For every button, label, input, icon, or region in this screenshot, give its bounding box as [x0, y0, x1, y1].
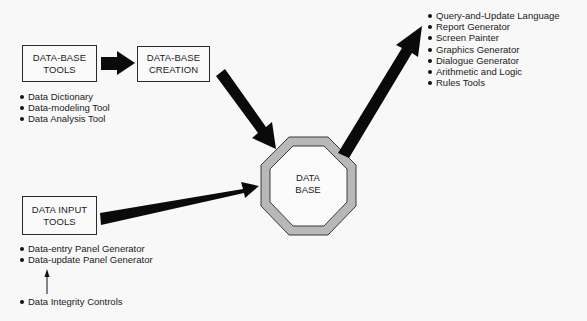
- list-item: Graphics Generator: [428, 44, 560, 55]
- list-item: Dialogue Generator: [428, 55, 560, 66]
- database-tools-list: Data Dictionary Data-modeling Tool Data …: [20, 91, 110, 125]
- list-item: Data-modeling Tool: [20, 102, 110, 113]
- node-data-input-tools: DATA INPUT TOOLS: [22, 196, 97, 235]
- integrity-list: Data Integrity Controls: [20, 296, 123, 307]
- list-item: Data-update Panel Generator: [20, 254, 153, 265]
- arrow-tools-to-creation: [101, 51, 135, 75]
- node-database-label: DATA BASE: [268, 172, 348, 196]
- list-item: Arithmetic and Logic: [428, 66, 560, 77]
- arrow-integrity-head: [45, 269, 50, 277]
- list-item: Screen Painter: [428, 32, 560, 43]
- node-database-tools: DATA-BASE TOOLS: [22, 45, 97, 82]
- arrow-database-to-outputs: [338, 26, 422, 158]
- data-input-list: Data-entry Panel Generator Data-update P…: [20, 243, 153, 265]
- list-item: Query-and-Update Language: [428, 10, 560, 21]
- node-database-creation: DATA-BASE CREATION: [137, 46, 210, 82]
- arrow-creation-to-database: [216, 69, 276, 149]
- node-label-line1: DATA-BASE: [33, 52, 86, 64]
- output-tools-list: Query-and-Update Language Report Generat…: [428, 10, 560, 88]
- node-label-line2: TOOLS: [32, 216, 88, 228]
- node-label-line1: DATA-BASE: [147, 52, 200, 64]
- node-label-line1: DATA INPUT: [32, 204, 88, 216]
- node-label-line2: TOOLS: [33, 64, 86, 76]
- node-label-line2: BASE: [268, 184, 348, 196]
- list-item: Report Generator: [428, 21, 560, 32]
- node-label-line1: DATA: [268, 172, 348, 184]
- list-item: Data Dictionary: [20, 91, 110, 102]
- list-item: Data-entry Panel Generator: [20, 243, 153, 254]
- arrow-input-to-database: [100, 182, 259, 225]
- node-label-line2: CREATION: [147, 64, 200, 76]
- list-item: Data Analysis Tool: [20, 113, 110, 124]
- list-item: Data Integrity Controls: [20, 296, 123, 307]
- list-item: Rules Tools: [428, 77, 560, 88]
